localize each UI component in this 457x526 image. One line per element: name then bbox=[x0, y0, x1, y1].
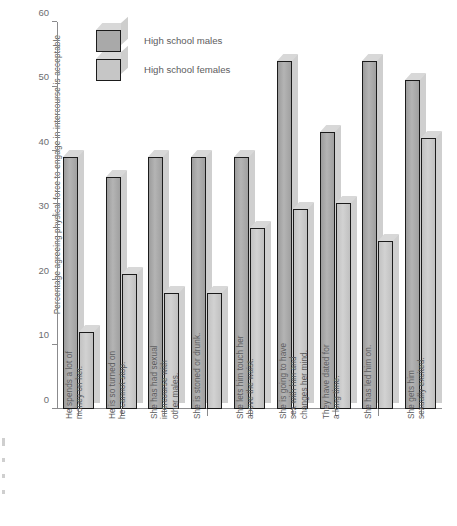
y-tick bbox=[52, 408, 57, 409]
y-tick-label: 0 bbox=[44, 393, 49, 404]
x-category-label: They have dated for a long time. bbox=[322, 309, 343, 419]
x-category-label: She gets him sexually excited. bbox=[407, 309, 428, 419]
legend-label-males: High school males bbox=[144, 35, 222, 46]
y-tick bbox=[52, 215, 57, 216]
legend-swatch-females bbox=[96, 59, 121, 81]
y-tick-label: 40 bbox=[38, 135, 49, 146]
y-tick bbox=[52, 279, 57, 280]
y-tick-label: 30 bbox=[38, 200, 49, 211]
bar-side-face bbox=[265, 222, 271, 403]
legend-swatch-males bbox=[96, 30, 121, 52]
y-tick bbox=[52, 86, 57, 87]
bar bbox=[378, 241, 393, 409]
x-category-label: She has led him on. bbox=[364, 309, 374, 419]
y-tick bbox=[52, 150, 57, 151]
bar bbox=[207, 293, 222, 409]
bar-side-face bbox=[137, 268, 143, 403]
y-tick-label: 50 bbox=[38, 71, 49, 82]
x-category-label: She has had sexual intercourse with othe… bbox=[150, 309, 181, 419]
x-category-label: He spends a lot of money on her. bbox=[65, 309, 86, 419]
x-tick bbox=[378, 409, 379, 416]
bar-group-item bbox=[207, 293, 222, 409]
y-tick bbox=[52, 344, 57, 345]
x-category-label: He is so turned on he cannot stop. bbox=[108, 309, 129, 419]
x-tick bbox=[207, 409, 208, 416]
y-axis-line bbox=[57, 22, 58, 409]
y-tick-label: 10 bbox=[38, 329, 49, 340]
bar-side-face bbox=[393, 235, 399, 403]
y-tick bbox=[52, 21, 57, 22]
bar-chart-figure: Percentage agreeing physical force to en… bbox=[0, 0, 457, 526]
x-category-label: She is going to have sex with him and ch… bbox=[279, 309, 310, 419]
x-category-label: She lets him touch her above the waist. bbox=[236, 309, 257, 419]
bar-group-item bbox=[378, 241, 393, 409]
x-category-label: She is stoned or drunk. bbox=[193, 309, 203, 419]
bar-side-face bbox=[94, 326, 100, 403]
page-edge-marks bbox=[2, 438, 8, 518]
bar-side-face bbox=[222, 287, 228, 403]
bar-side-face bbox=[436, 132, 442, 403]
bar-side-face bbox=[351, 197, 357, 403]
legend-label-females: High school females bbox=[144, 64, 230, 75]
y-tick-label: 20 bbox=[38, 264, 49, 275]
y-tick-label: 60 bbox=[38, 6, 49, 17]
